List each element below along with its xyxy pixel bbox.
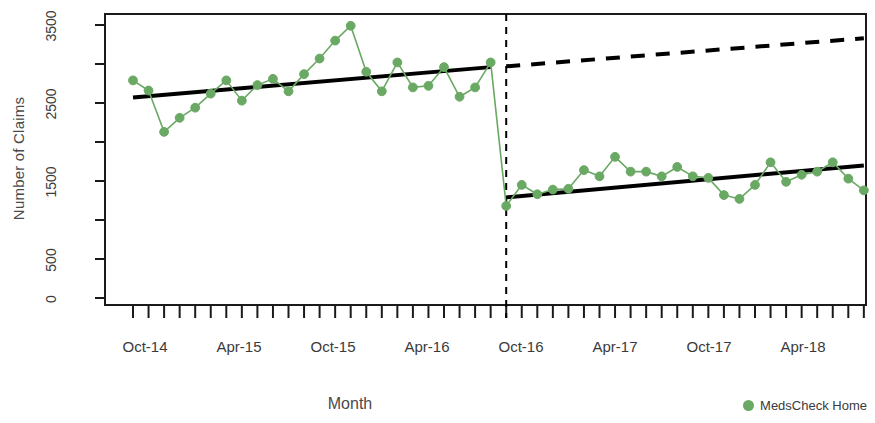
x-axis-ticks xyxy=(133,305,864,318)
series-markers-medscheck-home xyxy=(129,21,869,210)
legend: MedsCheck Home xyxy=(743,398,867,413)
y-axis-ticks xyxy=(95,25,105,298)
plot-frame xyxy=(105,14,866,305)
counterfactual-trend-line xyxy=(506,38,864,66)
legend-marker-medscheck-home xyxy=(743,400,754,411)
plot-area xyxy=(0,0,875,423)
series-line-medscheck-home xyxy=(133,26,864,206)
chart-figure: Number of Claims Month 0 500 1500 2500 3… xyxy=(0,0,875,423)
legend-label-medscheck-home: MedsCheck Home xyxy=(760,398,867,413)
fitted-trend-lines xyxy=(133,14,864,318)
